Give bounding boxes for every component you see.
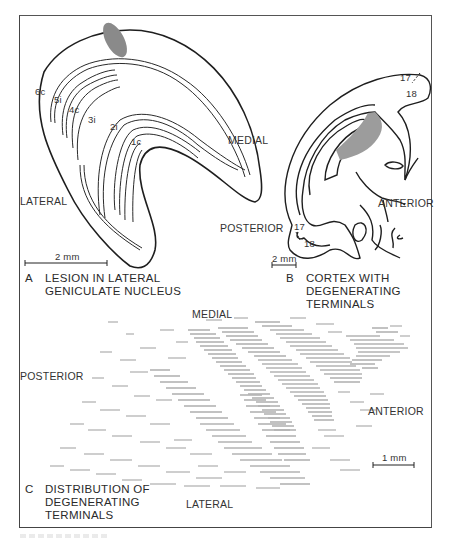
caption-c-line1: DISTRIBUTION OF [45,483,150,496]
layer-label-2i: 2i [110,121,118,133]
orientation-medial-a: MEDIAL [228,134,268,146]
caption-a: A LESION IN LATERAL GENICULATE NUCLEUS [25,272,215,300]
layer-label-4c: 4c [69,104,79,116]
lesion-spot [98,19,132,61]
band-4 [346,328,408,368]
scale-label-a: 2 mm [55,251,80,263]
orientation-medial-c: MEDIAL [192,308,232,320]
orientation-posterior-b: POSTERIOR [220,222,284,234]
layer-label-3i: 3i [88,114,96,126]
area-label-18-bottom: 18 [304,238,315,250]
cropped-footer-text [20,534,110,538]
caption-b: B CORTEX WITH DEGENERATING TERMINALS [286,272,436,314]
cortex-outline [285,74,430,258]
area-label-17-top: 17 [400,72,411,84]
degeneration-distribution [50,318,410,488]
caption-b-line1: CORTEX WITH [306,272,390,285]
layer-label-6c: 6c [35,86,45,98]
caption-c: C DISTRIBUTION OF DEGENERATING TERMINALS [25,483,205,525]
panel-letter-a: A [25,272,33,285]
band-5 [150,370,310,484]
caption-b-line2: DEGENERATING [306,285,401,298]
band-6 [240,395,310,460]
orientation-lateral-a: LATERAL [20,195,67,207]
degeneration-zone [336,112,382,160]
orientation-anterior-c: ANTERIOR [368,405,424,417]
scale-label-c: 1 mm [382,452,407,464]
caption-a-line1: LESION IN LATERAL [45,272,160,285]
scale-label-b: 2 mm [272,253,297,265]
caption-a-line2: GENICULATE NUCLEUS [45,285,181,298]
panel-letter-c: C [25,483,34,496]
orientation-posterior-c: POSTERIOR [20,370,84,382]
orientation-anterior-b: ANTERIOR [378,197,434,209]
caption-c-line3: TERMINALS [45,509,114,522]
caption-c-line2: DEGENERATING [45,496,140,509]
layer-label-1c: 1c [131,136,141,148]
area-label-17-bottom: 17 [294,221,305,233]
panel-letter-b: B [286,272,294,285]
layer-label-5i: 5i [54,94,62,106]
area-label-18-top: 18 [406,88,417,100]
caption-b-line3: TERMINALS [306,298,375,311]
